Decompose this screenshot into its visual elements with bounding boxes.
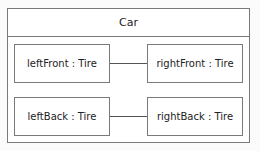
part-label: leftBack : Tire xyxy=(28,111,97,122)
part-right-front[interactable]: rightFront : Tire xyxy=(147,44,243,83)
part-label: rightBack : Tire xyxy=(157,111,233,122)
block-title: Car xyxy=(8,9,249,37)
part-right-back[interactable]: rightBack : Tire xyxy=(147,97,243,136)
part-left-front[interactable]: leftFront : Tire xyxy=(14,44,110,83)
part-label: leftFront : Tire xyxy=(27,58,97,69)
connector-front xyxy=(110,63,147,64)
connector-back xyxy=(110,116,147,117)
part-label: rightFront : Tire xyxy=(156,58,233,69)
part-left-back[interactable]: leftBack : Tire xyxy=(14,97,110,136)
